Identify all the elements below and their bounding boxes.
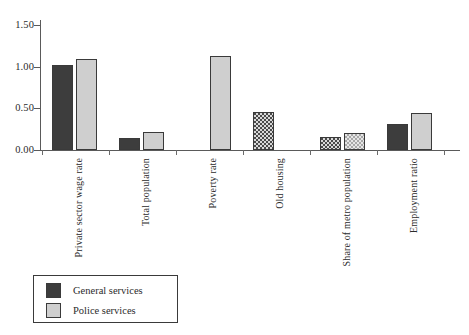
y-axis-tick-label: 1.00: [0, 62, 34, 72]
bar: [143, 132, 164, 150]
x-axis-label: Total population: [141, 158, 151, 226]
bar: [210, 56, 231, 150]
legend-label-general-services: General services: [73, 285, 143, 296]
x-axis-tick: [310, 150, 311, 155]
bar: [119, 138, 140, 151]
x-axis-tick: [377, 150, 378, 155]
bar: [411, 113, 432, 150]
bar: [387, 124, 408, 150]
y-axis-tick-label: 1.50: [0, 20, 34, 30]
x-axis-label: Poverty rate: [208, 158, 218, 208]
bar: [52, 65, 73, 150]
x-axis-label: Private sector wage rate: [74, 158, 84, 257]
legend-label-police-services: Police services: [73, 305, 136, 316]
bar: [344, 133, 365, 150]
x-axis-label: Share of metro population: [342, 158, 352, 266]
x-axis-tick: [109, 150, 110, 155]
bar: [76, 59, 97, 150]
plot-area: [40, 20, 460, 150]
bar-chart-figure: 1.501.000.500.00 Private sector wage rat…: [0, 0, 469, 335]
y-axis-tick-label: 0.50: [0, 103, 34, 113]
legend-item-police-services: Police services: [46, 302, 136, 318]
legend-item-general-services: General services: [46, 282, 143, 298]
x-axis-tick: [444, 150, 445, 155]
x-axis-line: [40, 150, 460, 151]
x-axis-label: Employment ratio: [409, 158, 419, 233]
y-axis-tick-label: 0.00: [0, 145, 34, 155]
x-axis-tick: [176, 150, 177, 155]
bar: [253, 112, 274, 150]
legend: General services Police services: [33, 275, 178, 323]
legend-swatch-police-services: [46, 303, 61, 318]
y-axis-tick: [34, 150, 41, 151]
legend-swatch-general-services: [46, 283, 61, 298]
x-axis-tick: [243, 150, 244, 155]
x-axis-label: Old housing: [275, 158, 285, 209]
x-axis-tick: [42, 150, 43, 155]
bar: [320, 137, 341, 150]
